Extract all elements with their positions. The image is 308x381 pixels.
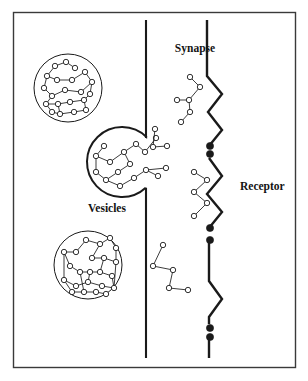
- vesicle-fusing-molecule: [143, 167, 148, 172]
- vesicle-fusing-molecule: [133, 141, 138, 146]
- vesicle-bottom-left-molecule: [101, 255, 106, 260]
- vesicle-fusing-molecule: [103, 177, 108, 182]
- vesicle-bottom-left-molecule: [83, 237, 88, 242]
- vesicle-top-left-molecule: [54, 77, 59, 82]
- vesicle-bottom-left-molecule: [93, 289, 98, 294]
- vesicle-top-left-molecule: [67, 99, 72, 104]
- synapse-diagram-figure: SynapseVesiclesReceptor: [0, 0, 308, 381]
- vesicle-top-left-molecule: [78, 89, 83, 94]
- vesicle-bottom-left-molecule: [69, 289, 74, 294]
- vesicle-fusing-molecule: [93, 169, 98, 174]
- vesicle-top-left-molecule: [69, 77, 74, 82]
- bound-receptor-site-4: [206, 236, 213, 243]
- vesicle-top-left-molecule: [63, 59, 68, 64]
- vesicle-bottom-left-molecule: [73, 283, 78, 288]
- molecule-cleft-lower-molecule: [185, 287, 190, 292]
- vesicle-bottom-left-molecule: [99, 283, 104, 288]
- vesicle-fusing-molecule: [107, 159, 112, 164]
- vesicle-top-left-molecule: [82, 69, 87, 74]
- vesicle-top-left-molecule: [57, 111, 62, 116]
- bound-receptor-site-1: [206, 142, 213, 149]
- vesicle-bottom-left-molecule: [81, 289, 86, 294]
- molecule-cleft-upper-molecule: [197, 84, 202, 89]
- vesicle-fusing-molecule: [163, 165, 168, 170]
- molecule-cleft-upper-molecule: [187, 74, 192, 79]
- vesicle-bottom-left-molecule: [107, 235, 112, 240]
- molecule-cleft-upper-molecule: [174, 97, 179, 102]
- vesicle-bottom-left-molecule: [113, 245, 118, 250]
- vesicle-bottom-left-molecule: [61, 249, 66, 254]
- vesicle-fusing-molecule: [115, 169, 120, 174]
- vesicle-fusing-molecule: [127, 161, 132, 166]
- molecule-escaping-vesicle-molecule: [150, 144, 155, 149]
- vesicle-bottom-left-molecule: [87, 269, 92, 274]
- label-synapse: Synapse: [175, 42, 215, 55]
- vesicle-bottom-left-molecule: [77, 269, 82, 274]
- molecule-cleft-middle-molecule: [204, 177, 209, 182]
- vesicle-bottom-left-molecule: [85, 279, 90, 284]
- vesicle-fusing-molecule: [121, 149, 126, 154]
- vesicle-fusing-molecule: [131, 175, 136, 180]
- molecule-escaping-vesicle-molecule: [152, 126, 157, 131]
- vesicle-bottom-left-molecule: [67, 263, 72, 268]
- vesicle-top-left-molecule: [49, 93, 54, 98]
- vesicle-top-left-molecule: [71, 109, 76, 114]
- vesicle-bottom-left-molecule: [61, 277, 66, 282]
- molecule-cleft-upper-molecule: [187, 109, 192, 114]
- vesicle-fusing-molecule: [142, 149, 147, 154]
- label-receptor: Receptor: [240, 180, 285, 193]
- vesicle-fusing-fusion-lip-upper: [146, 137, 147, 138]
- molecule-escaping-vesicle-molecule: [164, 143, 169, 148]
- vesicle-bottom-left-molecule: [73, 249, 78, 254]
- vesicle-fusing-molecule: [101, 143, 106, 148]
- molecule-cleft-middle-molecule: [191, 213, 196, 218]
- vesicle-top-left-molecule: [83, 107, 88, 112]
- bound-receptor-site-3: [206, 224, 213, 231]
- molecule-cleft-lower-molecule: [166, 285, 171, 290]
- vesicle-top-left-molecule: [43, 101, 48, 106]
- vesicle-top-left-molecule: [72, 65, 77, 70]
- molecule-cleft-lower-molecule: [160, 242, 165, 247]
- vesicle-top-left-molecule: [87, 91, 92, 96]
- vesicle-top-left-molecule: [49, 109, 54, 114]
- vesicle-bottom-left-molecule: [113, 259, 118, 264]
- molecule-cleft-upper-molecule: [178, 119, 183, 124]
- molecule-cleft-upper-molecule: [186, 97, 191, 102]
- bound-receptor-site-5: [206, 324, 213, 331]
- vesicle-fusing-molecule: [93, 153, 98, 158]
- vesicle-bottom-left-molecule: [97, 241, 102, 246]
- molecule-cleft-lower-molecule: [150, 263, 155, 268]
- molecule-cleft-middle-molecule: [191, 169, 196, 174]
- vesicle-bottom-left-molecule: [103, 291, 108, 296]
- vesicle-top-left-molecule: [62, 87, 67, 92]
- molecule-cleft-lower-molecule: [170, 267, 175, 272]
- vesicle-bottom-left-molecule: [89, 255, 94, 260]
- molecule-cleft-middle-molecule: [191, 189, 196, 194]
- vesicle-top-left-molecule: [44, 73, 49, 78]
- vesicle-fusing-molecule: [117, 183, 122, 188]
- vesicle-top-left-molecule: [41, 85, 46, 90]
- molecule-cleft-middle-molecule: [204, 200, 209, 205]
- vesicle-top-left-molecule: [81, 97, 86, 102]
- bound-receptor-site-6: [206, 333, 213, 340]
- vesicle-fusing-molecule: [155, 173, 160, 178]
- vesicle-top-left-molecule: [89, 79, 94, 84]
- vesicle-bottom-left-molecule: [97, 269, 102, 274]
- vesicle-top-left-molecule: [52, 63, 57, 68]
- label-vesicles: Vesicles: [88, 202, 126, 214]
- diagram-canvas: SynapseVesiclesReceptor: [0, 0, 308, 381]
- vesicle-top-left-molecule: [55, 101, 60, 106]
- bound-receptor-site-2: [206, 150, 213, 157]
- vesicle-bottom-left-molecule: [109, 273, 114, 278]
- vesicle-bottom-left-molecule: [111, 285, 116, 290]
